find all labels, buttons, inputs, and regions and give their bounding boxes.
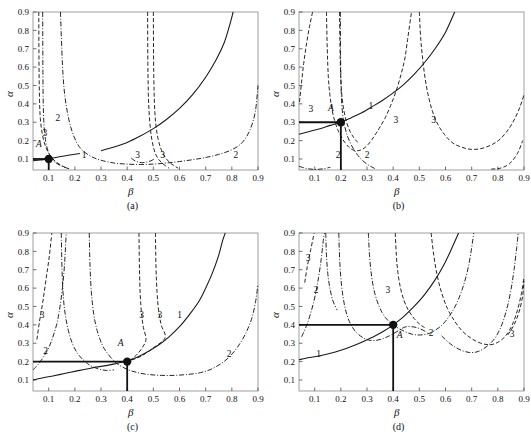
y-tick-label: 0.5: [18, 81, 30, 91]
curve-label-1: 1: [177, 310, 182, 320]
x-tick-label: 0.5: [414, 173, 426, 183]
y-tick-label: 0.2: [18, 357, 29, 367]
curve-label-3: 3: [386, 285, 391, 295]
y-tick-label: 0.7: [284, 44, 296, 54]
subplot-a: 0.10.20.30.40.50.60.70.80.90.10.20.30.40…: [0, 0, 265, 221]
x-tick-label: 0.9: [518, 394, 530, 404]
curve-label-2: 2: [314, 285, 319, 295]
x-tick-label: 0.3: [361, 394, 373, 404]
y-tick-label: 0.3: [284, 338, 296, 348]
x-tick-label: 0.2: [69, 394, 80, 404]
subplot-d: 0.10.20.30.40.50.60.70.80.90.10.20.30.40…: [266, 221, 531, 442]
curve-label-3: 3: [158, 310, 163, 320]
curve-label-3: 3: [510, 329, 515, 339]
x-tick-label: 0.1: [309, 173, 320, 183]
curve-3d: [419, 12, 524, 149]
point-a-marker: [123, 357, 131, 365]
y-tick-label: 0.1: [18, 154, 29, 164]
point-a-marker: [337, 118, 345, 126]
y-tick-label: 0.5: [284, 302, 296, 312]
curve-3b: [326, 12, 411, 151]
y-tick-label: 0.6: [284, 62, 296, 72]
curve-label-1: 1: [82, 150, 87, 160]
y-axis-label-d: α: [269, 312, 281, 318]
x-tick-label: 0.2: [335, 394, 346, 404]
curve-label-2: 2: [227, 349, 232, 359]
y-tick-label: 0.4: [284, 99, 296, 109]
y-tick-label: 0.5: [284, 81, 296, 91]
curve-3d: [395, 233, 424, 328]
curve-3c: [153, 12, 178, 168]
x-tick-label: 0.8: [492, 394, 504, 404]
x-tick-label: 0.5: [148, 394, 160, 404]
x-axis-label-c: β: [128, 406, 133, 418]
curve-label-3: 3: [160, 150, 165, 160]
y-tick-label: 0.4: [18, 99, 30, 109]
curve-label-1: 1: [316, 349, 321, 359]
x-tick-label: 0.9: [252, 173, 264, 183]
y-tick-label: 0.5: [18, 302, 30, 312]
x-tick-label: 0.7: [200, 173, 212, 183]
x-axis-label-d: β: [394, 406, 399, 418]
curve-label-2: 2: [429, 328, 434, 338]
x-axis-label-b: β: [394, 185, 399, 197]
x-tick-label: 0.1: [43, 394, 54, 404]
curve-label-2: 2: [336, 150, 341, 160]
y-tick-label: 0.4: [284, 320, 296, 330]
y-axis-label-b: α: [269, 91, 281, 97]
curve-3b: [148, 12, 169, 168]
curve-label-3: 3: [308, 104, 313, 114]
curve-3: [37, 233, 52, 340]
y-tick-label: 0.8: [284, 26, 296, 36]
curve-label-2: 2: [233, 150, 238, 160]
y-tick-label: 0.2: [18, 136, 29, 146]
curve-label-3: 3: [135, 150, 140, 160]
axis-frame: [299, 12, 524, 170]
y-tick-label: 0.8: [284, 247, 296, 257]
curve-label-3: 3: [431, 115, 436, 125]
subplot-c: 0.10.20.30.40.50.60.70.80.90.10.20.30.40…: [0, 221, 265, 442]
point-a-label: A: [117, 338, 124, 348]
point-a-marker: [389, 321, 397, 329]
curve-3: [300, 12, 313, 102]
curve-3c: [368, 233, 473, 335]
y-tick-label: 0.1: [284, 154, 295, 164]
x-tick-label: 0.3: [95, 394, 107, 404]
y-tick-label: 0.6: [18, 62, 30, 72]
x-tick-label: 0.3: [361, 173, 373, 183]
x-tick-label: 0.6: [174, 394, 186, 404]
y-axis-label-a: α: [3, 91, 15, 97]
curve-label-2: 2: [55, 113, 60, 123]
x-tick-label: 0.9: [518, 173, 530, 183]
curve-3b: [61, 233, 114, 370]
x-tick-label: 0.4: [122, 394, 134, 404]
x-tick-label: 0.7: [466, 394, 478, 404]
point-a-label: A: [396, 330, 403, 340]
y-tick-label: 0.1: [18, 375, 29, 385]
x-tick-label: 0.4: [122, 173, 134, 183]
y-tick-label: 0.3: [284, 117, 296, 127]
curve-3c: [127, 233, 146, 361]
point-a-marker: [44, 155, 52, 163]
x-tick-label: 0.9: [252, 394, 264, 404]
x-tick-label: 0.6: [440, 394, 452, 404]
curve-2b: [89, 233, 258, 376]
point-a-label: A: [35, 139, 42, 149]
curve-label-3: 3: [306, 253, 311, 263]
curve-label-2: 2: [365, 150, 370, 160]
x-tick-label: 0.6: [174, 173, 186, 183]
curve-2: [340, 12, 376, 169]
x-tick-label: 0.1: [309, 394, 320, 404]
x-tick-label: 0.7: [466, 173, 478, 183]
axis-frame: [33, 12, 258, 170]
x-tick-label: 0.7: [200, 394, 212, 404]
point-a-label: A: [327, 103, 334, 113]
x-tick-label: 0.4: [388, 173, 400, 183]
y-tick-label: 0.2: [284, 136, 295, 146]
curve-2b: [43, 12, 70, 169]
y-tick-label: 0.6: [284, 283, 296, 293]
curve-3f: [508, 281, 524, 335]
y-tick-label: 0.8: [18, 247, 30, 257]
y-axis-label-c: α: [3, 312, 15, 318]
y-tick-label: 0.9: [18, 228, 30, 238]
